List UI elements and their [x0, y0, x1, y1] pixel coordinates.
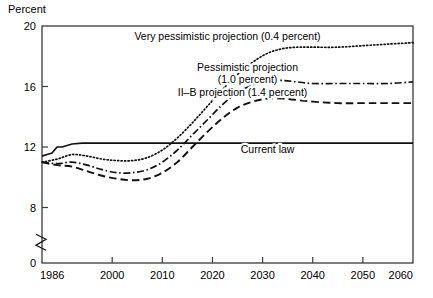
series-line [42, 143, 413, 156]
y-axis-title: Percent [8, 3, 46, 15]
series-annotation-label: II–B projection (1.4 percent) [178, 86, 308, 98]
y-tick-label: 0 [30, 257, 36, 269]
y-tick-label: 12 [24, 141, 36, 153]
y-tick-label: 20 [24, 20, 36, 32]
x-tick-label: 2050 [351, 269, 375, 281]
x-tick-label: 2020 [200, 269, 224, 281]
y-tick-label: 8 [30, 202, 36, 214]
x-tick-label: 1986 [40, 269, 64, 281]
x-tick-label: 2010 [150, 269, 174, 281]
x-tick-label: 2060 [389, 269, 413, 281]
x-tick-label: 2030 [250, 269, 274, 281]
series-annotation-label: Current law [241, 143, 295, 155]
series-annotation-label: Very pessimistic projection (0.4 percent… [134, 30, 320, 42]
projection-line-chart: 0812162019862000201020202030204020502060… [0, 0, 433, 298]
x-tick-label: 2040 [300, 269, 324, 281]
y-axis-break-icon [36, 234, 46, 250]
x-tick-label: 2000 [100, 269, 124, 281]
series-annotation-label: (1.0 percent) [218, 73, 278, 85]
chart-container: 0812162019862000201020202030204020502060… [0, 0, 433, 298]
series-annotation-label: Pessimistic projection [197, 61, 298, 73]
y-tick-label: 16 [24, 81, 36, 93]
